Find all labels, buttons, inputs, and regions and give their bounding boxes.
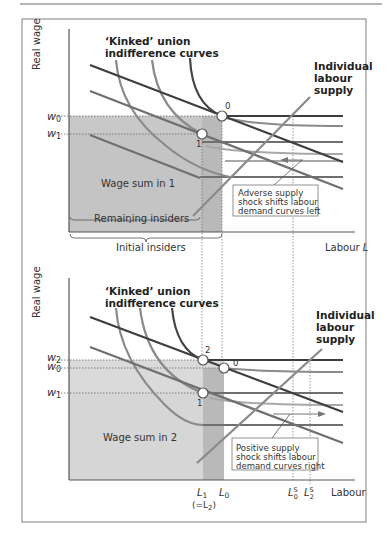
svg-text:supply: supply <box>314 84 353 96</box>
y-axis-label: Real wage <box>31 18 42 70</box>
point-1-label: 1 <box>197 398 202 408</box>
svg-text:labour: labour <box>316 321 355 333</box>
y-axis-label: Real wage <box>31 266 42 318</box>
supply-label: Individual <box>316 309 375 321</box>
initial-insiders-label: Initial insiders <box>116 242 186 253</box>
point-0-label: 0 <box>225 101 230 111</box>
point-0 <box>217 111 227 121</box>
point-2 <box>198 355 208 365</box>
x-axis-label: Labour L <box>325 242 368 253</box>
point-2-label: 2 <box>205 345 210 355</box>
svg-text:demand curves left: demand curves left <box>238 206 321 216</box>
svg-text:labour: labour <box>314 72 353 84</box>
wage-sum-label: Wage sum in 1 <box>101 178 175 189</box>
point-1 <box>197 129 207 139</box>
point-0-label: 0 <box>233 358 238 368</box>
svg-text:demand curves right: demand curves right <box>236 461 325 471</box>
svg-text:supply: supply <box>316 333 355 345</box>
x-axis-label: Labour <box>331 487 367 498</box>
point-0 <box>219 363 229 373</box>
svg-text:indifference curves: indifference curves <box>105 47 219 59</box>
wage-sum-label: Wage sum in 2 <box>103 432 177 443</box>
point-1 <box>198 388 208 398</box>
curves-title: ‘Kinked’ union <box>105 35 190 47</box>
curves-title: ‘Kinked’ union <box>105 285 190 297</box>
point-1-label: 1 <box>196 139 201 149</box>
supply-label: Individual <box>314 60 373 72</box>
remaining-insiders-label: Remaining insiders <box>94 213 189 224</box>
insider-outsider-diagram: Real wage ‘Kinked’ union indifference cu… <box>0 0 388 535</box>
svg-text:indifference curves: indifference curves <box>105 297 219 309</box>
